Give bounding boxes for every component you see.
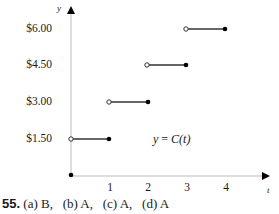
y-tick-label: $1.50 [0, 132, 52, 144]
segment-1 [69, 137, 111, 142]
x-tick-label: 4 [219, 181, 233, 193]
x-tick-label: 3 [180, 181, 194, 193]
x-tick-label: 1 [103, 181, 117, 193]
open-endpoint-icon [184, 27, 188, 31]
closed-endpoint-icon [184, 63, 189, 68]
y-tick-label: $6.00 [0, 22, 52, 34]
y-tick-label: $4.50 [0, 58, 52, 70]
segment-2 [107, 100, 151, 105]
y-axis-label: y [57, 3, 61, 13]
open-endpoint-icon [107, 100, 111, 104]
y-tick-label: $3.00 [0, 95, 52, 107]
closed-endpoint-icon [107, 137, 112, 142]
origin-point-icon [69, 173, 74, 178]
y-axis-arrow-icon [67, 6, 75, 14]
x-axis-arrow-icon [262, 172, 270, 180]
answer-choices: (a) B, (b) A, (c) A, (d) A [20, 196, 169, 211]
open-endpoint-icon [145, 63, 149, 67]
segment-3 [145, 63, 189, 68]
x-axis-label: t [267, 185, 270, 195]
closed-endpoint-icon [146, 100, 151, 105]
segment-4 [184, 27, 228, 32]
x-tick-label: 2 [141, 181, 155, 193]
function-label: y = C(t) [153, 132, 190, 147]
problem-number: 55. [2, 196, 20, 211]
open-endpoint-icon [69, 137, 73, 141]
answer-text: 55. (a) B, (b) A, (c) A, (d) A [2, 196, 169, 212]
closed-endpoint-icon [223, 27, 228, 32]
